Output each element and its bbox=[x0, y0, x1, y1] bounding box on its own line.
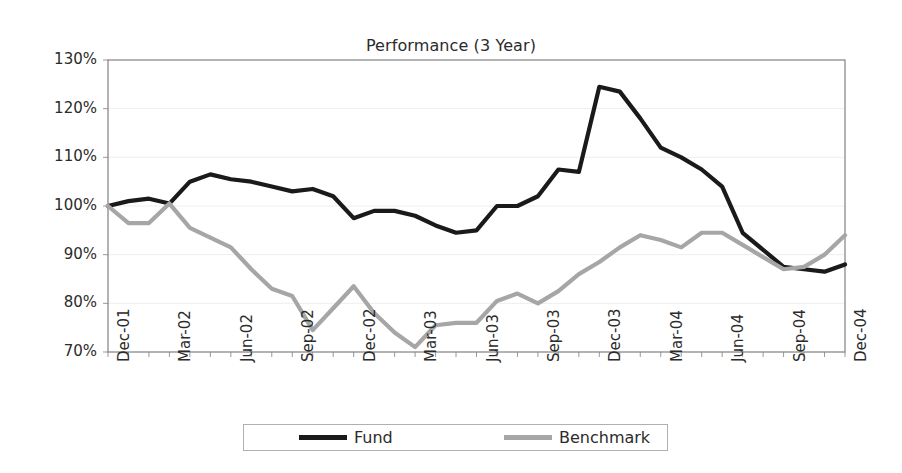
legend-label: Benchmark bbox=[559, 428, 650, 447]
y-axis-tick-label: 110% bbox=[28, 147, 97, 165]
x-axis-tick-label: Mar-04 bbox=[668, 310, 686, 362]
x-axis-tick-label: Jun-03 bbox=[484, 314, 502, 362]
legend-item-benchmark[interactable]: Benchmark bbox=[504, 425, 650, 450]
chart-plot-area bbox=[0, 0, 902, 473]
x-axis-tick-label: Dec-02 bbox=[361, 308, 379, 362]
x-axis-tick-label: Mar-02 bbox=[176, 310, 194, 362]
series-line-fund bbox=[108, 87, 845, 272]
data-series bbox=[108, 87, 845, 347]
x-axis-tick-label: Jun-02 bbox=[238, 314, 256, 362]
x-axis-tick-label: Jun-04 bbox=[729, 314, 747, 362]
gridlines bbox=[108, 109, 845, 304]
y-axis-tick-label: 100% bbox=[28, 196, 97, 214]
x-axis-tick-label: Dec-01 bbox=[115, 308, 133, 362]
x-axis-tick-label: Mar-03 bbox=[422, 310, 440, 362]
y-axis-tick-label: 130% bbox=[28, 50, 97, 68]
y-axis-tick-label: 80% bbox=[28, 293, 97, 311]
x-axis-tick-label: Dec-03 bbox=[606, 308, 624, 362]
y-axis-tick-label: 70% bbox=[28, 342, 97, 360]
x-axis-tick-label: Dec-04 bbox=[852, 308, 870, 362]
performance-chart: Performance (3 Year) 70%80%90%100%110%12… bbox=[0, 0, 902, 473]
y-axis-tick-label: 120% bbox=[28, 99, 97, 117]
y-axis-tick-label: 90% bbox=[28, 245, 97, 263]
chart-legend: FundBenchmark bbox=[243, 424, 668, 451]
legend-label: Fund bbox=[354, 428, 393, 447]
legend-swatch-fund bbox=[299, 435, 347, 440]
x-axis-tick-label: Sep-04 bbox=[791, 309, 809, 362]
legend-item-fund[interactable]: Fund bbox=[299, 425, 393, 450]
x-axis-tick-label: Sep-02 bbox=[299, 309, 317, 362]
legend-swatch-benchmark bbox=[504, 435, 552, 440]
x-axis-tick-label: Sep-03 bbox=[545, 309, 563, 362]
